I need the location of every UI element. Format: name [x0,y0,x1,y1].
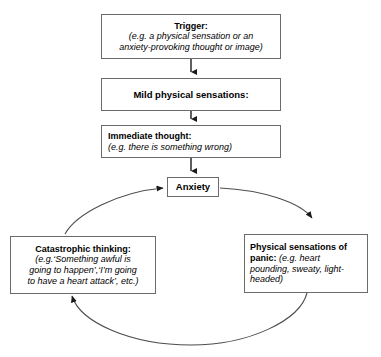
node-trigger: Trigger: (e.g. a physical sensation or a… [101,14,281,59]
catastrophic-example-line-2: going to happen’,‘I’m going [15,265,151,276]
catastrophic-example-line-1: (e.g.‘Something awful is [15,254,151,265]
immediate-heading: Immediate thought: [108,131,274,142]
physical-panic-example-line-3: pounding, sweaty, light- [250,264,362,275]
node-physical-sensations-of-panic: Physical sensations of panic: (e.g. hear… [244,234,368,293]
curve-anxiety-to-physical-panic [220,188,312,218]
trigger-example-line-2: anxiety-provoking thought or image) [105,42,277,53]
node-anxiety: Anxiety [167,177,219,197]
physical-panic-heading-line-2: panic: [250,253,277,263]
node-immediate-thought: Immediate thought: (e.g. there is someth… [101,125,281,158]
trigger-example-line-1: (e.g. a physical sensation or an [105,31,277,42]
anxiety-heading: Anxiety [170,181,216,192]
node-catastrophic-thinking: Catastrophic thinking: (e.g.‘Something a… [10,236,156,294]
curve-catastrophic-to-anxiety [65,188,163,234]
mild-heading: Mild physical sensations: [105,89,277,100]
curve-physical-panic-to-catastrophic [72,293,307,345]
node-mild-physical-sensations: Mild physical sensations: [101,78,281,111]
physical-panic-heading-line-1: Physical sensations of [250,242,362,253]
catastrophic-example-line-3: to have a heart attack’, etc.) [15,276,151,287]
panic-cycle-diagram: Trigger: (e.g. a physical sensation or a… [0,0,381,357]
physical-panic-line-2: panic: (e.g. heart [250,253,362,264]
physical-panic-example-line-4: headed) [250,274,362,285]
catastrophic-heading: Catastrophic thinking: [15,244,151,255]
immediate-example: (e.g. there is something wrong) [108,142,274,153]
physical-panic-example-line-2: (e.g. heart [277,253,321,263]
trigger-heading: Trigger: [105,21,277,32]
